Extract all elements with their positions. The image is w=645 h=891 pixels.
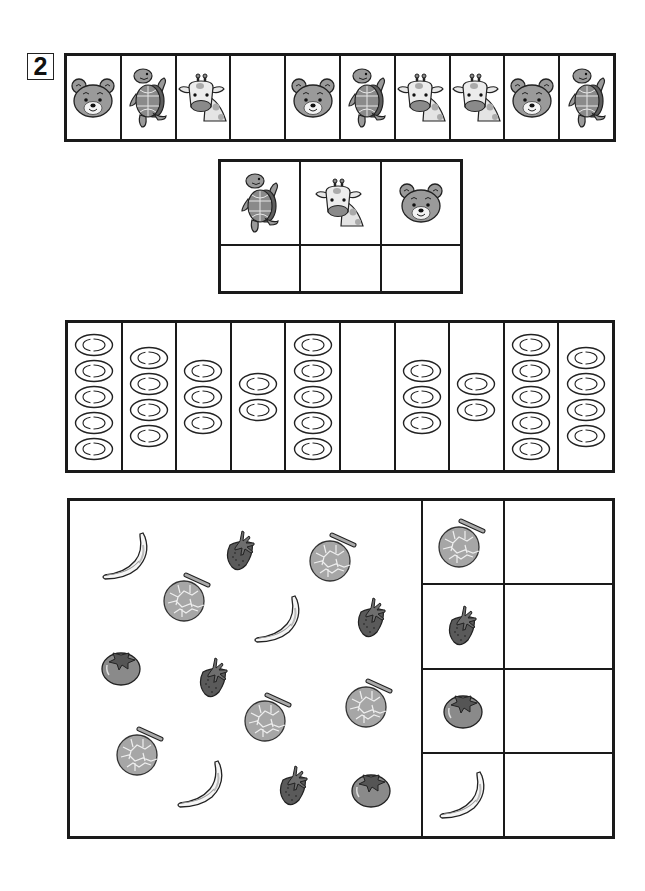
sequence-cell-blank[interactable]	[231, 56, 286, 139]
scattered-melon	[243, 689, 295, 743]
scattered-persimmon	[100, 649, 142, 687]
plate-icon	[129, 372, 169, 396]
plate-icon	[511, 437, 551, 461]
plate-column	[396, 323, 451, 470]
bear-icon	[509, 77, 555, 119]
strawberry-icon	[353, 596, 391, 640]
scattered-melon	[344, 675, 396, 729]
sequence-cell-giraffe	[396, 56, 451, 139]
fruit-tally-row-persimmon	[423, 670, 612, 754]
fruit-tally-answer-banana[interactable]	[505, 754, 612, 836]
fruit-tally-icon-cell	[423, 754, 505, 836]
fruit-scatter-area	[70, 501, 423, 836]
fruit-tally-icon-cell	[423, 501, 505, 583]
sequence-cell-bear	[505, 56, 560, 139]
giraffe-icon	[315, 178, 365, 228]
strawberry-icon	[195, 656, 233, 700]
sequence-cell-giraffe	[451, 56, 506, 139]
plate-icon	[293, 333, 333, 357]
fruit-tally-table	[423, 501, 612, 836]
scattered-melon	[308, 529, 360, 583]
banana-icon	[437, 770, 489, 820]
plate-icon	[129, 398, 169, 422]
plate-icon	[293, 437, 333, 461]
persimmon-icon	[350, 771, 392, 809]
scattered-strawberry	[222, 529, 260, 573]
scattered-banana	[100, 531, 152, 581]
tally-answer-giraffe[interactable]	[301, 246, 381, 291]
plate-icon	[511, 359, 551, 383]
turtle-icon	[567, 66, 607, 130]
strawberry-icon	[275, 764, 313, 808]
plate-icon	[566, 372, 606, 396]
melon-icon	[437, 515, 489, 569]
strawberry-icon	[222, 529, 260, 573]
scattered-strawberry	[353, 596, 391, 640]
turtle-icon	[240, 171, 280, 235]
fruit-tally-icon-cell	[423, 670, 505, 752]
fruit-section	[67, 498, 615, 839]
plate-column	[232, 323, 287, 470]
banana-icon	[252, 594, 304, 644]
plate-icon	[183, 411, 223, 435]
plate-column	[559, 323, 612, 470]
tally-answer-bear[interactable]	[382, 246, 460, 291]
animal-sequence-strip	[64, 53, 616, 142]
scattered-melon	[162, 569, 214, 623]
tally-header-turtle	[221, 162, 301, 244]
strawberry-icon	[444, 604, 482, 648]
fruit-tally-row-melon	[423, 501, 612, 585]
plate-icon	[566, 398, 606, 422]
plate-column	[286, 323, 341, 470]
giraffe-icon	[452, 73, 502, 123]
fruit-tally-row-strawberry	[423, 585, 612, 669]
plate-icon	[183, 359, 223, 383]
plate-icon	[402, 385, 442, 409]
melon-icon	[308, 529, 360, 583]
plate-column	[177, 323, 232, 470]
plate-icon	[183, 385, 223, 409]
scattered-banana	[252, 594, 304, 644]
sequence-cell-turtle	[341, 56, 396, 139]
plate-column	[450, 323, 505, 470]
sequence-cell-giraffe	[177, 56, 232, 139]
plate-icon	[566, 346, 606, 370]
plate-icon	[238, 398, 278, 422]
plate-icon	[511, 385, 551, 409]
plate-column	[341, 323, 396, 470]
plate-column	[505, 323, 560, 470]
tally-icon-row	[221, 162, 460, 246]
fruit-tally-answer-strawberry[interactable]	[505, 585, 612, 667]
tally-answer-turtle[interactable]	[221, 246, 301, 291]
fruit-tally-icon-cell	[423, 585, 505, 667]
bear-icon	[290, 77, 336, 119]
banana-icon	[175, 759, 227, 809]
persimmon-icon	[442, 692, 484, 730]
persimmon-icon	[100, 649, 142, 687]
plate-icon	[74, 385, 114, 409]
turtle-icon	[128, 66, 168, 130]
plate-column	[123, 323, 178, 470]
fruit-tally-answer-melon[interactable]	[505, 501, 612, 583]
plate-icon	[511, 411, 551, 435]
fruit-tally-row-banana	[423, 754, 612, 836]
tally-answer-row	[221, 246, 460, 291]
sequence-cell-turtle	[560, 56, 613, 139]
plate-icon	[293, 411, 333, 435]
plate-icon	[129, 346, 169, 370]
plate-icon	[238, 372, 278, 396]
plate-columns	[65, 320, 615, 473]
plate-icon	[402, 359, 442, 383]
plate-icon	[293, 359, 333, 383]
plate-icon	[402, 411, 442, 435]
plate-icon	[74, 411, 114, 435]
banana-icon	[100, 531, 152, 581]
scattered-persimmon	[350, 771, 392, 809]
turtle-icon	[347, 66, 387, 130]
fruit-tally-answer-persimmon[interactable]	[505, 670, 612, 752]
sequence-cell-bear	[286, 56, 341, 139]
question-number: 2	[27, 53, 54, 80]
giraffe-icon	[397, 73, 447, 123]
plate-icon	[456, 372, 496, 396]
melon-icon	[344, 675, 396, 729]
